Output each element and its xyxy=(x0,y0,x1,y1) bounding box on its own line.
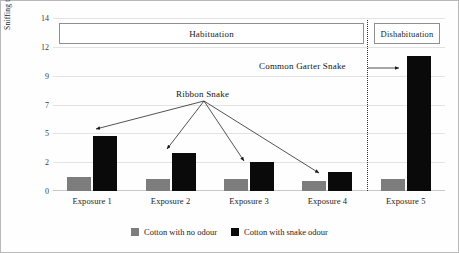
chart-figure: Sniffing time in seconds 141297520 Habit… xyxy=(0,0,459,253)
bar-group xyxy=(146,18,196,191)
y-axis-tick-0: 0 xyxy=(23,187,49,196)
bar[interactable] xyxy=(302,181,326,191)
bar[interactable] xyxy=(407,56,431,191)
bar-group xyxy=(381,18,431,191)
x-axis-tick-label: Exposure 1 xyxy=(52,196,132,206)
legend-swatch-icon xyxy=(231,228,239,236)
legend-item[interactable]: Cotton with snake odour xyxy=(231,227,328,237)
x-axis-tick-label: Exposure 4 xyxy=(287,196,367,206)
y-axis-tick-2: 2 xyxy=(23,158,49,167)
y-axis-title: Sniffing time in seconds xyxy=(3,0,12,51)
bar[interactable] xyxy=(381,179,405,191)
bar[interactable] xyxy=(328,172,352,191)
bar[interactable] xyxy=(93,136,117,191)
bar[interactable] xyxy=(250,162,274,191)
chart-legend: Cotton with no odourCotton with snake od… xyxy=(1,227,458,237)
y-axis-tick-9: 9 xyxy=(23,71,49,80)
bar[interactable] xyxy=(67,177,91,191)
x-axis-tick-label: Exposure 2 xyxy=(131,196,211,206)
bar-group xyxy=(224,18,274,191)
y-axis-tick-labels: 141297520 xyxy=(15,1,49,253)
legend-item[interactable]: Cotton with no odour xyxy=(131,227,217,237)
y-axis-tick-7: 7 xyxy=(23,100,49,109)
bar-group xyxy=(302,18,352,191)
phase-divider xyxy=(367,20,368,191)
y-axis-tick-5: 5 xyxy=(23,129,49,138)
legend-swatch-icon xyxy=(131,228,139,236)
y-axis-tick-12: 12 xyxy=(23,42,49,51)
x-axis-tick-label: Exposure 5 xyxy=(366,196,446,206)
bar-group xyxy=(67,18,117,191)
bar[interactable] xyxy=(146,179,170,191)
y-axis-tick-14: 14 xyxy=(23,14,49,23)
bar[interactable] xyxy=(224,179,248,191)
plot-area: Habituation Dishabituation xyxy=(53,18,445,191)
legend-label: Cotton with no odour xyxy=(144,227,217,237)
x-axis-tick-label: Exposure 3 xyxy=(209,196,289,206)
legend-label: Cotton with snake odour xyxy=(244,227,328,237)
bar[interactable] xyxy=(172,153,196,191)
annotation-ribbon-snake: Ribbon Snake xyxy=(176,89,229,99)
annotation-common-garter-snake: Common Garter Snake xyxy=(259,61,346,71)
